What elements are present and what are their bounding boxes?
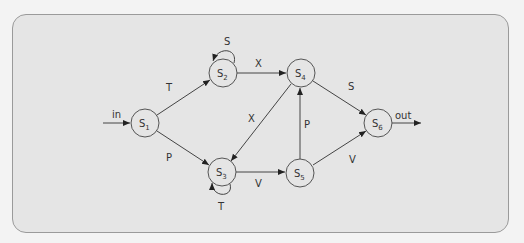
label-s3-s5: V	[255, 178, 262, 189]
label-s2-s4: X	[255, 58, 262, 69]
label-s5-s4: P	[304, 119, 310, 130]
node-s4: S4	[287, 59, 315, 87]
label-s3-loop: T	[217, 201, 225, 212]
node-s6: S6	[364, 109, 392, 137]
label-s1-s3: P	[166, 152, 172, 163]
node-s5: S5	[286, 159, 314, 187]
state-diagram: S1 S2 S3 S4 S5 S6 in T P S X T V X S P V…	[0, 0, 524, 243]
edge-s1-s3	[157, 131, 209, 165]
node-s1: S1	[131, 109, 159, 137]
label-out: out	[395, 110, 411, 121]
label-s1-s2: T	[165, 82, 173, 93]
edge-s1-s2	[157, 80, 210, 115]
label-s4-s3: X	[248, 113, 255, 124]
label-s5-s6: V	[349, 154, 356, 165]
label-s2-loop: S	[224, 36, 230, 47]
edge-s4-s6	[313, 81, 366, 115]
label-in: in	[112, 109, 121, 120]
edge-s4-s3	[231, 84, 291, 161]
node-s2: S2	[209, 59, 237, 87]
label-s4-s6: S	[348, 81, 354, 92]
edge-s5-s6	[313, 131, 366, 165]
node-s3: S3	[208, 158, 236, 186]
